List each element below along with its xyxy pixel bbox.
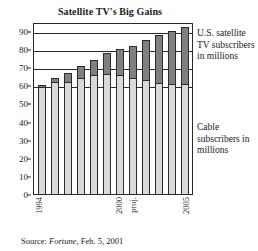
bar-segment-satellite: [90, 60, 98, 75]
source-note: Source: Fortune, Feb. 5, 2001: [21, 236, 123, 246]
bar-segment-cable: [77, 78, 85, 194]
y-axis: 0102030405060708090: [0, 23, 31, 195]
bar: [129, 46, 137, 194]
bar-segment-satellite: [142, 40, 150, 80]
bar: [116, 49, 124, 194]
bar-segment-satellite: [77, 66, 85, 78]
bar-segment-cable: [116, 75, 124, 194]
bar: [142, 40, 150, 194]
bar-segment-cable: [38, 87, 46, 194]
source-publication: Fortune: [49, 236, 76, 246]
bar: [155, 35, 163, 194]
chart-title: Satellite TV's Big Gains: [20, 6, 200, 18]
bar: [103, 53, 111, 194]
y-axis-tick-mark: [27, 176, 31, 177]
x-axis-tick-label: proj.: [129, 197, 138, 213]
bar: [51, 78, 59, 194]
x-axis-tick-label: 2005: [182, 197, 191, 214]
bar-segment-satellite: [168, 31, 176, 84]
y-axis-tick-mark: [27, 32, 31, 33]
y-axis-tick-mark: [27, 104, 31, 105]
bar-segment-satellite: [181, 27, 189, 84]
legend-cable: Cable subscribers in millions: [197, 122, 257, 157]
y-axis-tick-mark: [27, 140, 31, 141]
bar-segment-satellite: [155, 35, 163, 83]
bar-segment-satellite: [64, 73, 72, 82]
bar-segment-cable: [90, 75, 98, 194]
bar: [90, 60, 98, 194]
bar-segment-cable: [51, 82, 59, 194]
bar-segment-cable: [155, 83, 163, 194]
bar-segment-cable: [142, 80, 150, 194]
y-axis-tick-mark: [27, 50, 31, 51]
y-axis-tick-mark: [27, 68, 31, 69]
source-suffix: , Feb. 5, 2001: [76, 236, 123, 246]
bar-group: [34, 24, 192, 194]
y-axis-tick-mark: [27, 158, 31, 159]
bar-segment-cable: [129, 78, 137, 194]
chart-figure: Satellite TV's Big Gains 010203040506070…: [0, 0, 258, 251]
x-axis-tick-label: 1994: [35, 197, 44, 214]
bar: [168, 31, 176, 194]
bar: [181, 27, 189, 194]
source-prefix: Source:: [21, 236, 49, 246]
bar: [77, 66, 85, 194]
legend-satellite: U.S. satellite TV subscribers in million…: [197, 28, 257, 63]
bar-segment-cable: [64, 82, 72, 194]
bar: [64, 73, 72, 194]
bar: [38, 85, 46, 194]
x-axis-tick-label: 2000: [115, 197, 124, 214]
bar-segment-satellite: [103, 53, 111, 74]
bar-segment-satellite: [116, 49, 124, 75]
x-axis: 19942000proj.2005: [33, 196, 193, 228]
y-axis-tick-mark: [27, 122, 31, 123]
bar-segment-cable: [168, 84, 176, 194]
bar-segment-cable: [181, 84, 189, 194]
plot-area: [33, 23, 193, 195]
bar-segment-satellite: [129, 46, 137, 79]
bar-segment-cable: [103, 74, 111, 194]
y-axis-tick-mark: [27, 195, 31, 196]
y-axis-tick-mark: [27, 86, 31, 87]
